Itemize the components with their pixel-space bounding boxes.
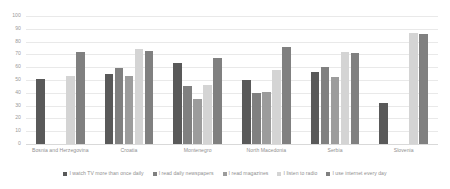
bar [66,76,75,144]
y-axis: 1009080706050403020100 [0,16,24,144]
y-axis-tick: 0 [18,141,21,146]
bar-group [26,16,95,144]
plot-area [26,16,438,144]
bar [105,74,114,144]
bar [252,93,261,144]
legend-label: I use internet every day [332,171,386,176]
x-axis-label: Bosnia and Herzegovina [26,147,95,159]
bar-chart: 1009080706050403020100 Bosnia and Herzeg… [0,0,450,189]
bar [262,92,271,144]
y-axis-tick: 60 [15,65,21,70]
y-axis-tick: 30 [15,103,21,108]
y-axis-tick: 20 [15,116,21,121]
bar [321,67,330,144]
legend-swatch-icon [153,172,157,176]
bar [419,34,428,144]
bar [135,49,144,144]
bar-group [369,16,438,144]
bar [242,80,251,144]
bar-group [232,16,301,144]
bar [115,68,124,144]
bar [173,63,182,144]
bar [203,85,212,144]
gridline [26,144,438,145]
bar [282,47,291,144]
bar [341,52,350,144]
legend-item[interactable]: I read daily newspapers [153,171,214,176]
legend-item[interactable]: I watch TV more than once daily [63,171,143,176]
bar [145,51,154,144]
legend-item[interactable]: I use internet every day [326,171,386,176]
legend-label: I read magazines [229,171,269,176]
legend-swatch-icon [63,172,67,176]
bar-groups [26,16,438,144]
bar-group [95,16,164,144]
legend-label: I listen to radio [283,171,317,176]
bar [193,99,202,144]
legend-item[interactable]: I read magazines [223,171,269,176]
y-axis-tick: 70 [15,52,21,57]
x-axis-label: Serbia [301,147,370,159]
y-axis-tick: 90 [15,26,21,31]
y-axis-tick: 100 [12,13,21,18]
legend-swatch-icon [223,172,227,176]
bar [36,79,45,144]
x-axis-label: North Macedonia [232,147,301,159]
bar [272,70,281,144]
y-axis-tick: 10 [15,129,21,134]
bar [379,103,388,144]
legend-swatch-icon [326,172,330,176]
x-axis-label: Slovenia [369,147,438,159]
bar [183,86,192,144]
bar [351,53,360,144]
x-axis-label: Croatia [95,147,164,159]
legend-swatch-icon [277,172,281,176]
bar [76,52,85,144]
y-axis-tick: 80 [15,39,21,44]
bar-group [301,16,370,144]
chart-legend: I watch TV more than once dailyI read da… [0,171,450,176]
bar [331,77,340,144]
bar-group [163,16,232,144]
x-axis: Bosnia and HerzegovinaCroatiaMontenegroN… [26,147,438,159]
legend-item[interactable]: I listen to radio [277,171,317,176]
bar [311,72,320,144]
bar [213,58,222,144]
y-axis-tick: 40 [15,90,21,95]
bar [409,33,418,144]
x-axis-label: Montenegro [163,147,232,159]
legend-label: I read daily newspapers [159,171,214,176]
y-axis-tick: 50 [15,77,21,82]
legend-label: I watch TV more than once daily [69,171,143,176]
bar [125,76,134,144]
